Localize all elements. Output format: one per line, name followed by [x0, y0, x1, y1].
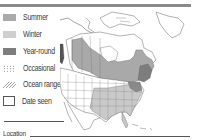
legend-item-date-seen[interactable]: Date seen	[3, 95, 58, 107]
summer-swatch-icon	[3, 14, 16, 21]
legend-item-winter: Winter	[3, 28, 46, 40]
hatched-swatch-icon	[3, 81, 16, 88]
legend-item-ocean-range: Ocean range	[3, 78, 69, 90]
legend-item-year-round: Year-round	[3, 45, 62, 57]
top-rule	[0, 4, 191, 7]
date-seen-checkbox[interactable]	[3, 96, 15, 106]
legend-label: Winter	[23, 29, 42, 39]
range-map	[60, 8, 197, 132]
legend-label: Year-round	[23, 46, 55, 56]
legend-label: Summer	[23, 12, 48, 22]
dotted-swatch-icon	[3, 65, 16, 72]
legend-label: Occasional	[23, 63, 55, 73]
legend-item-summer: Summer	[3, 11, 53, 23]
date-entry-line[interactable]	[4, 121, 64, 122]
location-field: Location	[3, 129, 31, 138]
legend-item-occasional: Occasional	[3, 62, 62, 74]
location-input-line[interactable]	[30, 136, 190, 137]
legend-label: Date seen	[22, 96, 52, 106]
legend-label: Ocean range	[23, 79, 61, 89]
year-round-swatch-icon	[3, 48, 16, 55]
winter-swatch-icon	[3, 31, 16, 38]
location-label: Location	[3, 129, 26, 138]
